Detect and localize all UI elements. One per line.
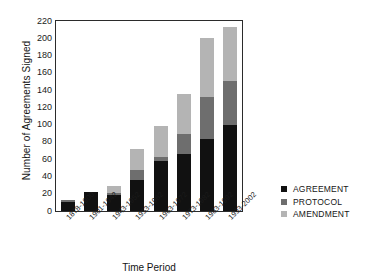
y-axis-tick-label: 0 [47, 207, 52, 216]
chart-legend: AGREEMENTPROTOCOLAMENDMENT [281, 183, 350, 221]
y-axis-tick-label: 60 [42, 155, 52, 164]
legend-swatch-icon [281, 199, 287, 205]
y-axis-tick-label: 20 [42, 189, 52, 198]
bar-segment-amendment [154, 126, 168, 158]
bar-segment-amendment [177, 94, 191, 134]
y-axis-tick-label: 160 [37, 68, 52, 77]
bars-layer [56, 21, 242, 211]
y-axis-tick-label: 200 [37, 34, 52, 43]
legend-item-label: AGREEMENT [293, 183, 349, 196]
stacked-bar-chart: 020406080100120140160180200220 Number of… [0, 0, 387, 278]
y-axis-tick-label: 40 [42, 172, 52, 181]
y-axis-tick-label: 180 [37, 51, 52, 60]
bar-segment-protocol [200, 97, 214, 139]
legend-item-protocol: PROTOCOL [281, 196, 350, 209]
bar-segment-protocol [130, 170, 144, 180]
y-axis-title: Number of Agreements Signed [21, 21, 32, 201]
y-axis-tick-label: 80 [42, 137, 52, 146]
bar-segment-protocol [223, 81, 237, 124]
legend-item-label: PROTOCOL [293, 196, 342, 209]
legend-swatch-icon [281, 211, 287, 217]
legend-item-amendment: AMENDMENT [281, 208, 350, 221]
legend-item-label: AMENDMENT [293, 208, 350, 221]
bar-segment-amendment [200, 38, 214, 97]
bar-1993-2002 [223, 27, 237, 211]
x-axis-title: Time Period [55, 262, 243, 273]
legend-swatch-icon [281, 186, 287, 192]
legend-item-agreement: AGREEMENT [281, 183, 350, 196]
y-axis-tick-label: 120 [37, 103, 52, 112]
bar-segment-amendment [130, 149, 144, 171]
bar-segment-protocol [177, 134, 191, 154]
bar-segment-amendment [223, 27, 237, 81]
y-axis-tick-label: 100 [37, 120, 52, 129]
y-axis-tick-label: 220 [37, 17, 52, 26]
y-axis-tick-label: 140 [37, 86, 52, 95]
bar-1983-1992 [200, 38, 214, 211]
